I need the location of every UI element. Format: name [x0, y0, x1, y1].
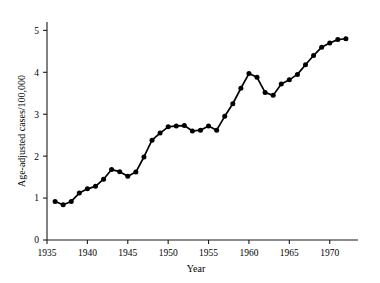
data-point [77, 191, 82, 196]
data-point [141, 154, 146, 159]
x-tick-label: 1970 [320, 248, 339, 258]
data-point-markers [53, 36, 349, 207]
y-tick-label: 0 [34, 235, 39, 245]
y-tick-label: 2 [34, 152, 39, 162]
x-axis-title: Year [187, 263, 206, 274]
x-tick-label: 1960 [239, 248, 258, 258]
data-point [133, 170, 138, 175]
data-point [214, 128, 219, 133]
data-point [85, 186, 90, 191]
x-tick-label: 1955 [199, 248, 218, 258]
data-point [117, 169, 122, 174]
data-point [343, 36, 348, 41]
data-point [198, 128, 203, 133]
data-point [109, 167, 114, 172]
data-point [158, 131, 163, 136]
data-point [174, 123, 179, 128]
y-tick-label: 1 [34, 193, 39, 203]
data-point [271, 93, 276, 98]
data-point [150, 138, 155, 143]
data-point [263, 90, 268, 95]
line-chart: 012345 19351940194519501955196019651970 … [0, 0, 380, 283]
data-point [190, 129, 195, 134]
data-point [327, 40, 332, 45]
data-point [295, 72, 300, 77]
data-point [238, 86, 243, 91]
chart-container: 012345 19351940194519501955196019651970 … [0, 0, 380, 283]
data-point [101, 177, 106, 182]
x-tick-label: 1935 [38, 248, 57, 258]
data-point [230, 101, 235, 106]
data-point [311, 53, 316, 58]
data-point [255, 75, 260, 80]
data-point [69, 199, 74, 204]
data-point [303, 62, 308, 67]
x-tick-label: 1950 [159, 248, 178, 258]
y-tick-label: 5 [34, 26, 39, 36]
y-tick-label: 4 [34, 68, 39, 78]
x-tick-label: 1945 [118, 248, 137, 258]
data-point [125, 174, 130, 179]
y-tick-label: 3 [34, 110, 39, 120]
data-point [287, 77, 292, 82]
data-point [335, 37, 340, 42]
x-tick-label: 1940 [78, 248, 97, 258]
data-point [182, 123, 187, 128]
data-point [246, 71, 251, 76]
data-point [222, 114, 227, 119]
y-axis-ticks: 012345 [34, 26, 47, 246]
x-axis-ticks: 19351940194519501955196019651970 [38, 240, 340, 258]
data-point [319, 45, 324, 50]
data-point [279, 82, 284, 87]
x-tick-label: 1965 [280, 248, 299, 258]
data-point [166, 124, 171, 129]
data-point [206, 123, 211, 128]
y-axis-title: Age-adjusted cases/100,000 [16, 75, 27, 187]
data-point [53, 199, 58, 204]
data-series-line [55, 39, 346, 205]
data-point [61, 202, 66, 207]
data-point [93, 184, 98, 189]
